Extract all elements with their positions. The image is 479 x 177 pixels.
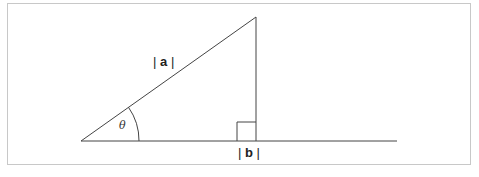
- abs-bar-left: |: [153, 54, 156, 69]
- abs-bar-right: |: [257, 145, 260, 160]
- vector-a: a: [160, 54, 167, 69]
- hypotenuse-label: | a |: [153, 54, 174, 69]
- abs-bar-right: |: [171, 54, 174, 69]
- right-angle-marker: [237, 122, 256, 141]
- vector-b: b: [245, 145, 253, 160]
- angle-theta-label: θ: [119, 119, 126, 132]
- angle-arc: [129, 107, 140, 141]
- base-label: | b |: [238, 145, 260, 160]
- hypotenuse-line: [81, 17, 256, 141]
- abs-bar-left: |: [238, 145, 241, 160]
